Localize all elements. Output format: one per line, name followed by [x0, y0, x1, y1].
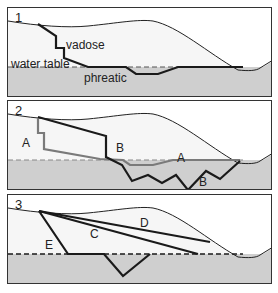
panel-number: 3: [15, 198, 22, 211]
vadose-zone-fill: [8, 113, 272, 163]
phreatic-zone-fill: [8, 254, 272, 284]
label-vadose: vadose: [66, 39, 105, 51]
label-a-lower: A: [177, 152, 185, 164]
panel-number: 1: [15, 11, 22, 24]
panel-number: 2: [15, 104, 22, 117]
label-water-table: water table: [11, 58, 70, 70]
label-b-upper: B: [116, 142, 124, 154]
label-phreatic: phreatic: [84, 72, 127, 84]
label-d: D: [140, 217, 149, 229]
label-b-lower: B: [199, 176, 207, 188]
label-e: E: [45, 239, 53, 251]
panel-1: 1 vadose water table phreatic: [7, 7, 272, 97]
label-a-upper: A: [22, 137, 30, 149]
panel-3: 3 E C D: [7, 194, 272, 284]
label-c: C: [90, 228, 99, 240]
panel-2-cross-section: [8, 101, 272, 190]
panel-1-cross-section: [8, 8, 272, 97]
panel-2: 2 A B A B: [7, 100, 272, 190]
